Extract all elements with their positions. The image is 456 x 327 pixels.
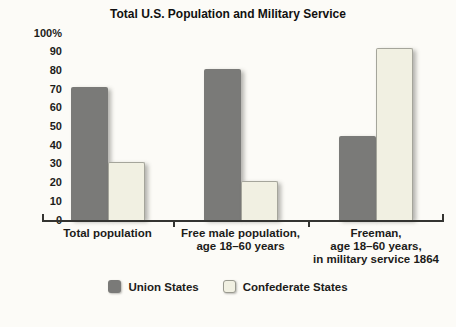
x-axis-separator-tick <box>308 220 310 227</box>
bar-union <box>339 136 376 220</box>
bar-union <box>204 69 241 220</box>
legend-item: Union States <box>108 280 198 293</box>
legend-swatch-icon <box>223 280 236 293</box>
plot-area: 0102030405060708090100%Total populationF… <box>0 0 456 327</box>
bar-confederate <box>108 162 145 220</box>
x-category-label: Freeman, age 18–60 years, in military se… <box>296 227 456 266</box>
y-tick-label: 40 <box>18 140 62 151</box>
legend-label: Confederate States <box>243 281 348 293</box>
x-axis-end-tick <box>442 214 444 222</box>
x-axis-line <box>42 220 444 222</box>
legend: Union StatesConfederate States <box>0 280 456 293</box>
y-tick-label: 100% <box>18 28 62 39</box>
bar-union <box>71 87 108 220</box>
legend-item: Confederate States <box>223 280 348 293</box>
y-tick-label: 90 <box>18 46 62 57</box>
legend-label: Union States <box>128 281 198 293</box>
y-tick-label: 70 <box>18 84 62 95</box>
y-tick-label: 80 <box>18 65 62 76</box>
population-military-service-chart: Total U.S. Population and Military Servi… <box>0 0 456 327</box>
x-axis-separator-tick <box>173 220 175 227</box>
bar-confederate <box>241 181 278 220</box>
y-tick-label: 60 <box>18 102 62 113</box>
x-axis-end-tick <box>42 214 44 222</box>
legend-swatch-icon <box>108 280 121 293</box>
y-tick-label: 20 <box>18 177 62 188</box>
y-tick-label: 30 <box>18 158 62 169</box>
y-tick-label: 10 <box>18 196 62 207</box>
bar-confederate <box>376 48 413 220</box>
y-tick-label: 50 <box>18 121 62 132</box>
